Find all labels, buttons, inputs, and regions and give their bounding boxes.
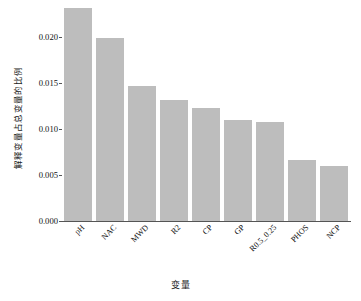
x-axis-ticks: pHNACMWDR2CPGPR0.5_0.25PHOSNCP bbox=[62, 223, 350, 275]
bar bbox=[128, 86, 155, 221]
bar-chart-figure: 解释变量占总变量的比例 0.0000.0050.0100.0150.020 pH… bbox=[0, 0, 361, 301]
plot-area bbox=[62, 8, 350, 221]
y-tick-label: 0.020 bbox=[22, 32, 58, 42]
bar bbox=[96, 38, 123, 221]
x-axis-title: 变量 bbox=[0, 278, 361, 291]
bar bbox=[64, 8, 91, 221]
y-tick-label: 0.015 bbox=[22, 78, 58, 88]
bar bbox=[320, 166, 347, 221]
bar bbox=[192, 108, 219, 221]
y-tick-label: 0.000 bbox=[22, 216, 58, 226]
y-tick-label: 0.005 bbox=[22, 170, 58, 180]
bar bbox=[288, 160, 315, 221]
bar bbox=[256, 122, 283, 221]
bar bbox=[224, 120, 251, 221]
x-axis-line bbox=[60, 221, 351, 222]
bar bbox=[160, 100, 187, 221]
y-tick-label: 0.010 bbox=[22, 124, 58, 134]
